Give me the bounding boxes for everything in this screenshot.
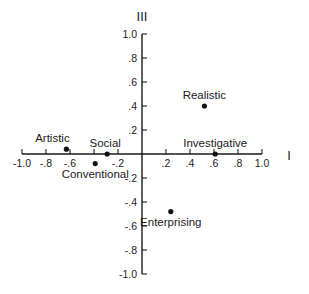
point-label-artistic: Artistic [35, 132, 70, 144]
y-tick-label: .8 [128, 52, 137, 64]
point-label-investigative: Investigative [183, 137, 247, 149]
x-axis-title: I [287, 148, 291, 163]
x-tick-label: .6 [210, 157, 219, 169]
y-tick-label: 1.0 [122, 28, 137, 40]
y-axis-title: III [137, 9, 148, 24]
point-label-social: Social [90, 137, 121, 149]
x-tick-label: .8 [234, 157, 243, 169]
x-tick-label: 1.0 [255, 157, 270, 169]
data-point-realistic [202, 103, 207, 108]
y-tick-label: -1.0 [119, 268, 137, 280]
axes [22, 34, 262, 274]
point-label-conventional: Conventional [62, 168, 129, 180]
x-tick-label: -1.0 [13, 157, 31, 169]
data-point-artistic [64, 147, 69, 152]
x-tick-label: -.8 [40, 157, 52, 169]
x-tick-label: .4 [186, 157, 195, 169]
data-point-social [105, 151, 110, 156]
y-tick-label: .2 [128, 124, 137, 136]
data-point-enterprising [168, 209, 173, 214]
scatter-chart: -1.0-.8-.6-.2.2.4.6.81.01.0.8.6.4.2-.2-.… [0, 0, 309, 294]
point-label-realistic: Realistic [183, 89, 227, 101]
y-tick-label: -.8 [125, 244, 137, 256]
data-point-investigative [213, 151, 218, 156]
point-label-enterprising: Enterprising [140, 216, 201, 228]
y-tick-label: .6 [128, 76, 137, 88]
y-tick-label: -.4 [125, 196, 137, 208]
y-tick-label: .4 [128, 100, 137, 112]
data-point-conventional [93, 161, 98, 166]
y-tick-label: -.6 [125, 220, 137, 232]
x-tick-label: .2 [162, 157, 171, 169]
